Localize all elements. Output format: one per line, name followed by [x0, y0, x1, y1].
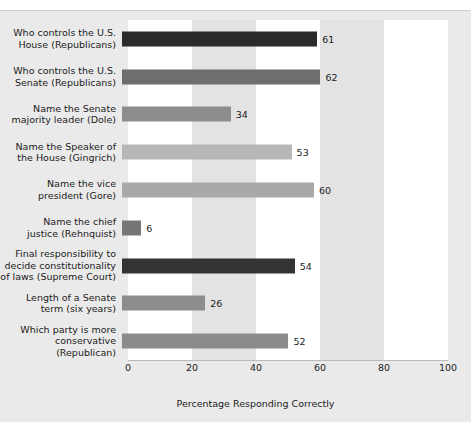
bar-row: Final responsibility to decide constitut… [0, 247, 471, 285]
bar-track: 53 [122, 133, 471, 171]
x-axis-label-text: Percentage Responding Correctly [137, 398, 335, 409]
x-axis-label: Percentage Responding Correctly [0, 398, 471, 409]
x-tick-label: 60 [314, 362, 326, 373]
bar-category-label: Name the chief justice (Rehnquist) [0, 216, 122, 239]
bar [122, 258, 295, 273]
bar-track: 61 [122, 20, 471, 58]
bar-value-label: 60 [319, 184, 331, 195]
bar-track: 26 [122, 284, 471, 322]
bar [122, 182, 314, 197]
bar [122, 69, 320, 84]
bar-track: 34 [122, 96, 471, 134]
bar-category-label: Length of a Senate term (six years) [0, 292, 122, 315]
bar-row: Which party is more conservative (Republ… [0, 322, 471, 360]
bar-value-label: 62 [325, 71, 337, 82]
bar [122, 296, 205, 311]
x-axis-ticks: 020406080100 [128, 362, 448, 376]
bar-track: 62 [122, 58, 471, 96]
bar-row: Who controls the U.S. Senate (Republican… [0, 58, 471, 96]
bar-category-label: Which party is more conservative (Republ… [0, 324, 122, 359]
bar-value-label: 54 [300, 260, 312, 271]
bar-row: Name the Senate majority leader (Dole)34 [0, 96, 471, 134]
bar [122, 220, 141, 235]
bar-value-label: 52 [293, 336, 305, 347]
x-tick-label: 0 [125, 362, 131, 373]
bar-value-label: 26 [210, 298, 222, 309]
bar-category-label: Name the Senate majority leader (Dole) [0, 103, 122, 126]
bar-category-label: Name the Speaker of the House (Gingrich) [0, 141, 122, 164]
bar-value-label: 6 [146, 222, 152, 233]
bar-row: Name the chief justice (Rehnquist)6 [0, 209, 471, 247]
x-tick-label: 40 [250, 362, 262, 373]
bar-track: 60 [122, 171, 471, 209]
bar-category-label: Final responsibility to decide constitut… [0, 248, 122, 283]
bar [122, 107, 231, 122]
x-tick-label: 20 [186, 362, 198, 373]
x-axis-line [128, 360, 448, 361]
bar-track: 6 [122, 209, 471, 247]
bar-category-label: Who controls the U.S. Senate (Republican… [0, 65, 122, 88]
bar-value-label: 34 [236, 109, 248, 120]
bar [122, 145, 292, 160]
bar-value-label: 53 [297, 147, 309, 158]
x-tick-label: 80 [378, 362, 390, 373]
bar-category-label: Who controls the U.S. House (Republicans… [0, 27, 122, 50]
bar-value-label: 61 [322, 33, 334, 44]
bar-rows: Who controls the U.S. House (Republicans… [0, 20, 471, 360]
bar-row: Name the vice president (Gore)60 [0, 171, 471, 209]
chart-container: Who controls the U.S. House (Republicans… [0, 0, 471, 432]
bar-category-label: Name the vice president (Gore) [0, 178, 122, 201]
bar-row: Name the Speaker of the House (Gingrich)… [0, 133, 471, 171]
bar-track: 52 [122, 322, 471, 360]
bar-track: 54 [122, 247, 471, 285]
bar-row: Length of a Senate term (six years)26 [0, 284, 471, 322]
x-tick-label: 100 [439, 362, 457, 373]
bar-row: Who controls the U.S. House (Republicans… [0, 20, 471, 58]
bar [122, 334, 288, 349]
bar [122, 31, 317, 46]
